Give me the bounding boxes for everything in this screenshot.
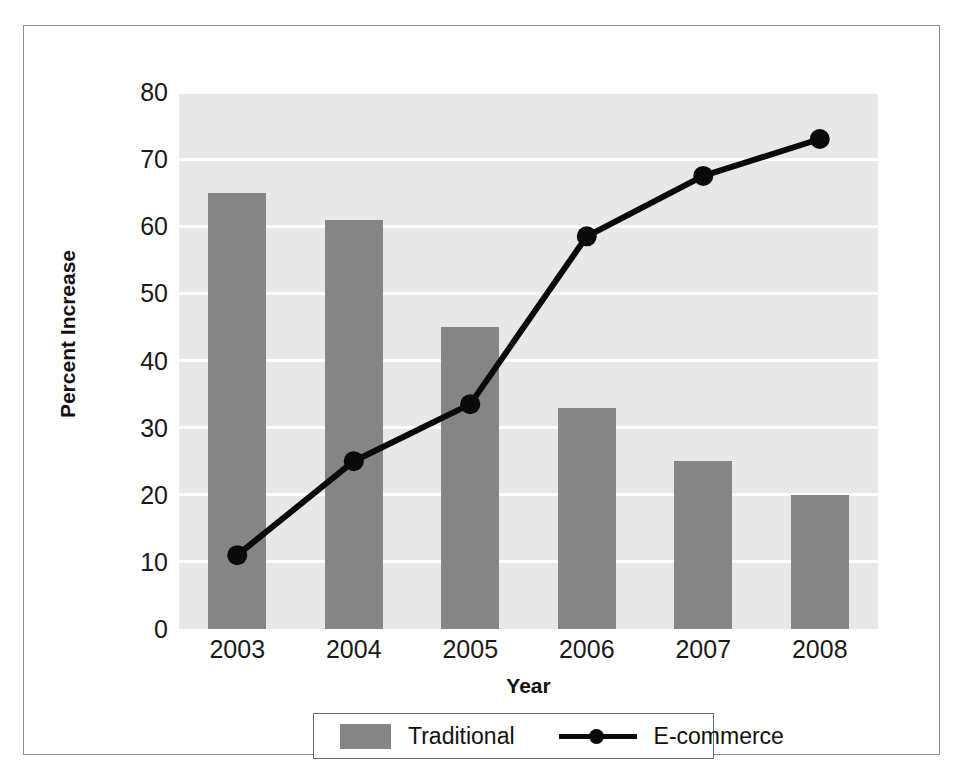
x-tick-label: 2007 — [645, 637, 762, 662]
y-tick-label: 10 — [122, 550, 168, 575]
y-tick-label: 60 — [122, 214, 168, 239]
line-marker — [460, 394, 480, 414]
legend-label-ecommerce: E-commerce — [654, 723, 784, 750]
x-axis-label: Year — [179, 674, 878, 698]
line-marker — [810, 129, 830, 149]
legend-item-traditional: Traditional — [340, 723, 515, 750]
x-tick-label: 2008 — [762, 637, 879, 662]
y-tick-label: 50 — [122, 281, 168, 306]
line-markers — [227, 129, 830, 565]
x-axis-tick-labels: 200320042005200620072008 — [179, 637, 878, 671]
x-tick-label: 2005 — [412, 637, 529, 662]
x-tick-label: 2003 — [179, 637, 296, 662]
legend-label-traditional: Traditional — [408, 723, 515, 750]
y-tick-label: 70 — [122, 147, 168, 172]
figure: Percent Increase 01020304050607080 20032… — [0, 0, 961, 780]
x-tick-label: 2004 — [296, 637, 413, 662]
y-tick-label: 20 — [122, 483, 168, 508]
bar-swatch-icon — [340, 724, 391, 749]
y-tick-label: 40 — [122, 349, 168, 374]
line-marker — [344, 451, 364, 471]
plot-area — [179, 92, 878, 629]
y-tick-label: 0 — [122, 617, 168, 642]
legend-circle-marker-icon — [589, 729, 604, 744]
y-tick-label: 30 — [122, 416, 168, 441]
line-marker — [227, 545, 247, 565]
x-tick-label: 2006 — [529, 637, 646, 662]
line-marker — [577, 226, 597, 246]
y-axis-tick-labels: 01020304050607080 — [116, 92, 168, 629]
y-tick-label: 80 — [122, 80, 168, 105]
legend-item-ecommerce: E-commerce — [559, 723, 784, 750]
chart-legend: Traditional E-commerce — [313, 713, 714, 759]
y-axis-label: Percent Increase — [56, 244, 80, 424]
line-marker-swatch-icon — [559, 727, 637, 745]
figure-frame: Percent Increase 01020304050607080 20032… — [23, 25, 940, 755]
line-path — [237, 139, 820, 555]
line-marker — [693, 166, 713, 186]
line-series-ecommerce — [179, 92, 878, 629]
